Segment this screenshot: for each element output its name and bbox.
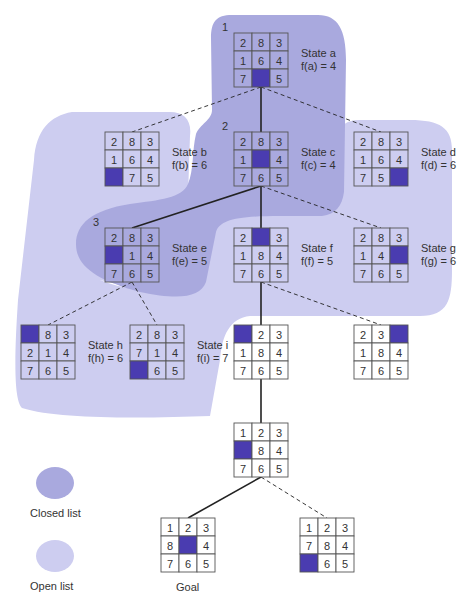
- tile-number: 1: [240, 154, 246, 166]
- blank-tile: [390, 168, 408, 186]
- f-value: f(h) = 6: [88, 352, 123, 364]
- tile-number: 1: [360, 154, 366, 166]
- tile-number: 5: [276, 463, 282, 475]
- tile-number: 8: [154, 329, 160, 341]
- blank-tile: [130, 361, 148, 379]
- blank-tile: [252, 69, 270, 87]
- tile-number: 4: [396, 154, 402, 166]
- tile-number: 4: [342, 540, 348, 552]
- tile-number: 5: [378, 172, 384, 184]
- tile-number: 6: [378, 365, 384, 377]
- f-value: f(i) = 7: [197, 352, 228, 364]
- state-name: State i: [197, 339, 228, 351]
- tile-number: 7: [136, 347, 142, 359]
- tile-number: 5: [63, 365, 69, 377]
- tile-number: 1: [129, 250, 135, 262]
- tile-number: 8: [167, 540, 173, 552]
- state-name: State f: [301, 242, 334, 254]
- tile-number: 1: [167, 522, 173, 534]
- tile-number: 6: [324, 558, 330, 570]
- tile-number: 1: [360, 347, 366, 359]
- state-name: State e: [172, 242, 207, 254]
- blank-tile: [21, 325, 39, 343]
- tile-number: 3: [63, 329, 69, 341]
- blank-tile: [252, 228, 270, 246]
- tile-number: 7: [306, 540, 312, 552]
- tile-number: 7: [360, 172, 366, 184]
- tile-number: 4: [147, 250, 153, 262]
- tile-number: 4: [276, 445, 282, 457]
- tile-number: 1: [306, 522, 312, 534]
- tile-number: 6: [154, 365, 160, 377]
- tile-number: 3: [276, 427, 282, 439]
- tile-number: 4: [147, 154, 153, 166]
- goal-label: Goal: [176, 581, 199, 593]
- search-tree-diagram: 283164751State af(a) = 428316475State bf…: [0, 0, 469, 605]
- tile-number: 3: [276, 232, 282, 244]
- tile-number: 1: [360, 250, 366, 262]
- f-value: f(c) = 4: [301, 159, 336, 171]
- tile-number: 7: [129, 172, 135, 184]
- tile-number: 8: [258, 445, 264, 457]
- tile-number: 7: [240, 73, 246, 85]
- tile-number: 2: [240, 232, 246, 244]
- f-value: f(f) = 5: [301, 255, 333, 267]
- tile-number: 7: [111, 268, 117, 280]
- state-name: State b: [172, 146, 207, 158]
- tile-number: 8: [129, 232, 135, 244]
- tile-number: 2: [360, 232, 366, 244]
- tile-number: 1: [111, 154, 117, 166]
- tile-number: 8: [258, 136, 264, 148]
- tile-number: 5: [396, 268, 402, 280]
- legend-closed-swatch: [36, 467, 74, 499]
- tile-number: 4: [396, 347, 402, 359]
- tile-number: 1: [240, 347, 246, 359]
- expansion-order: 2: [222, 120, 228, 132]
- tile-number: 5: [203, 558, 209, 570]
- tile-number: 7: [360, 365, 366, 377]
- tile-number: 6: [129, 268, 135, 280]
- tile-number: 2: [360, 136, 366, 148]
- tile-number: 2: [136, 329, 142, 341]
- tile-number: 4: [276, 154, 282, 166]
- tile-number: 6: [45, 365, 51, 377]
- tile-number: 3: [172, 329, 178, 341]
- tile-number: 6: [185, 558, 191, 570]
- tile-number: 3: [396, 232, 402, 244]
- tile-number: 8: [45, 329, 51, 341]
- blank-tile: [300, 554, 318, 572]
- tile-number: 8: [378, 232, 384, 244]
- tile-number: 5: [276, 268, 282, 280]
- tile-number: 2: [111, 136, 117, 148]
- tile-number: 8: [378, 347, 384, 359]
- tile-number: 1: [240, 427, 246, 439]
- tile-number: 1: [154, 347, 160, 359]
- state-name: State a: [301, 47, 337, 59]
- legend-open-swatch: [36, 540, 74, 572]
- tile-number: 2: [240, 136, 246, 148]
- tile-number: 7: [240, 365, 246, 377]
- f-value: f(a) = 4: [301, 60, 336, 72]
- f-value: f(b) = 6: [172, 159, 207, 171]
- blank-tile: [390, 325, 408, 343]
- tile-number: 6: [258, 55, 264, 67]
- tile-number: 6: [258, 172, 264, 184]
- tile-number: 2: [360, 329, 366, 341]
- tile-number: 2: [111, 232, 117, 244]
- tile-number: 7: [240, 463, 246, 475]
- tile-number: 8: [258, 347, 264, 359]
- tile-number: 3: [378, 329, 384, 341]
- tile-number: 3: [147, 232, 153, 244]
- blank-tile: [390, 246, 408, 264]
- tile-number: 8: [258, 37, 264, 49]
- legend-open-label: Open list: [30, 580, 73, 592]
- tile-number: 7: [240, 268, 246, 280]
- tile-number: 4: [203, 540, 209, 552]
- blank-tile: [252, 150, 270, 168]
- tile-number: 2: [258, 329, 264, 341]
- blank-tile: [105, 168, 123, 186]
- tile-number: 6: [129, 154, 135, 166]
- tile-number: 3: [276, 136, 282, 148]
- expansion-order: 3: [93, 216, 99, 228]
- tile-number: 5: [147, 268, 153, 280]
